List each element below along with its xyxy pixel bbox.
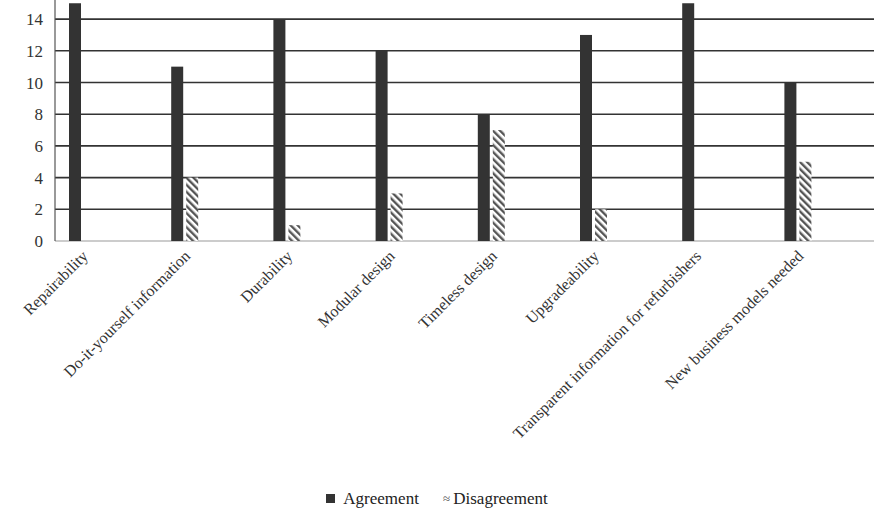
- y-axis: 02468101214: [26, 0, 55, 251]
- x-category-label: Timeless design: [415, 247, 501, 333]
- bar-disagreement: [391, 193, 403, 241]
- y-tick-label: 14: [26, 10, 44, 29]
- y-tick-label: 10: [26, 74, 43, 93]
- x-category-label: Upgradeability: [522, 247, 603, 328]
- bars: [69, 3, 811, 241]
- x-category-label: Repairability: [20, 247, 92, 319]
- y-tick-label: 6: [35, 137, 44, 156]
- bar-agreement: [273, 19, 285, 241]
- bar-disagreement: [186, 178, 198, 241]
- y-tick-label: 4: [35, 169, 44, 188]
- x-axis-labels: RepairabilityDo-it-yourself informationD…: [20, 247, 806, 442]
- bar-agreement: [376, 51, 388, 241]
- agreement-swatch-icon: [326, 494, 335, 503]
- y-tick-label: 12: [26, 42, 43, 61]
- y-tick-label: 8: [35, 105, 44, 124]
- legend-item-agreement: Agreement: [326, 489, 419, 509]
- legend: Agreement ≈ Disagreement: [0, 488, 874, 509]
- x-category-label: Modular design: [314, 247, 398, 331]
- bar-disagreement: [799, 162, 811, 241]
- bar-agreement: [171, 67, 183, 241]
- bar-agreement: [784, 83, 796, 242]
- x-category-label: Durability: [237, 247, 296, 306]
- y-tick-label: 2: [35, 200, 44, 219]
- disagreement-hatch-swatch-icon: ≈: [443, 491, 450, 507]
- bar-agreement: [682, 3, 694, 241]
- bar-disagreement: [493, 130, 505, 241]
- bar-disagreement: [288, 225, 300, 241]
- legend-label-agreement: Agreement: [343, 489, 419, 509]
- bar-disagreement: [595, 209, 607, 241]
- y-tick-label: 0: [35, 232, 44, 251]
- bar-agreement: [580, 35, 592, 241]
- legend-label-disagreement: Disagreement: [453, 489, 547, 509]
- x-category-label: Transparent information for refurbishers: [510, 247, 705, 442]
- legend-item-disagreement: ≈ Disagreement: [443, 489, 548, 509]
- bar-chart: 02468101214 RepairabilityDo-it-yourself …: [0, 0, 874, 480]
- bar-agreement: [478, 114, 490, 241]
- bar-agreement: [69, 3, 81, 241]
